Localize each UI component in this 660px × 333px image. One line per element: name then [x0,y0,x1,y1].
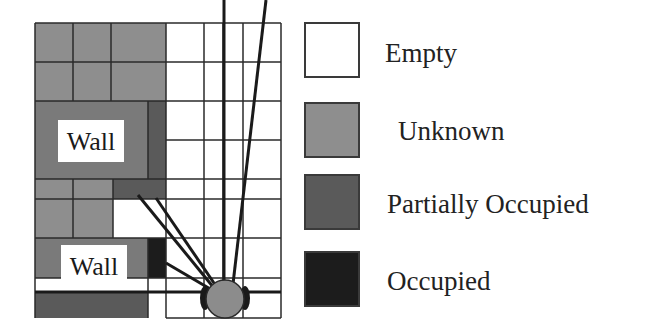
legend-label-occupied: Occupied [387,268,490,295]
partial-strip-upper [148,101,166,179]
wall-label-upper: Wall [67,127,115,156]
legend-label-partially-occupied: Partially Occupied [387,191,589,218]
robot-icon [206,280,244,318]
legend-swatch-occupied [304,251,360,307]
legend-swatch-empty [304,22,360,78]
unknown-region-middle [35,179,113,238]
legend-label-empty: Empty [385,40,457,67]
legend-swatch-partially-occupied [304,174,360,230]
legend-label-unknown: Unknown [398,118,505,145]
legend-swatch-unknown [304,102,360,158]
wall-label-lower: Wall [70,252,118,281]
occupied-cell [148,238,166,278]
partial-strip-bottom [35,292,148,318]
